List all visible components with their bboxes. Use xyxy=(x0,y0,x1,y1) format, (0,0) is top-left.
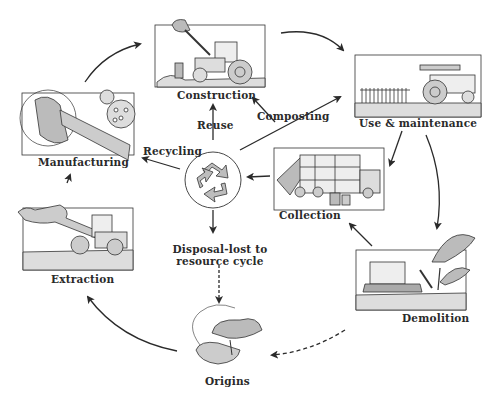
origins-illustration xyxy=(193,305,263,364)
arrow-demolition-to-collection xyxy=(350,224,372,246)
arrow-collection-to-recycle xyxy=(248,176,270,177)
arrow-construction-to-use xyxy=(281,32,343,50)
flow-label-disposal-line2: resource cycle xyxy=(160,255,280,267)
stage-label-use-maintenance: Use & maintenance xyxy=(359,117,477,129)
demolition-illustration xyxy=(356,235,475,310)
arrow-use-to-demolition xyxy=(426,135,439,228)
arrow-demolition-to-origins xyxy=(272,330,345,355)
manufacturing-illustration xyxy=(20,90,135,160)
arrow-origins-to-extraction xyxy=(88,297,177,351)
flow-label-reuse: Reuse xyxy=(197,119,234,131)
extraction-illustration xyxy=(18,205,133,270)
arrow-use-to-collection xyxy=(390,131,402,165)
collection-illustration xyxy=(274,148,384,210)
life-cycle-diagram: Construction Use & maintenance Manufactu… xyxy=(0,0,491,402)
construction-illustration xyxy=(155,20,265,87)
arrow-extraction-to-manufacturing xyxy=(67,175,70,183)
flow-label-composting: Composting xyxy=(257,110,330,122)
use-maintenance-illustration xyxy=(355,55,481,117)
arrow-recycling xyxy=(143,158,180,169)
flow-label-disposal-line1: Disposal-lost to xyxy=(160,243,280,255)
arrow-composting-to-use xyxy=(240,97,340,150)
flow-label-disposal: Disposal-lost to resource cycle xyxy=(160,243,280,267)
stage-label-extraction: Extraction xyxy=(51,273,114,285)
stage-label-origins: Origins xyxy=(205,375,250,387)
recycle-icon xyxy=(185,152,241,208)
stage-label-manufacturing: Manufacturing xyxy=(38,156,129,168)
stage-label-collection: Collection xyxy=(279,209,341,221)
arrow-manufacturing-to-construction xyxy=(85,44,140,82)
stage-label-construction: Construction xyxy=(177,89,256,101)
stage-label-demolition: Demolition xyxy=(402,312,469,324)
flow-label-recycling: Recycling xyxy=(143,145,202,157)
